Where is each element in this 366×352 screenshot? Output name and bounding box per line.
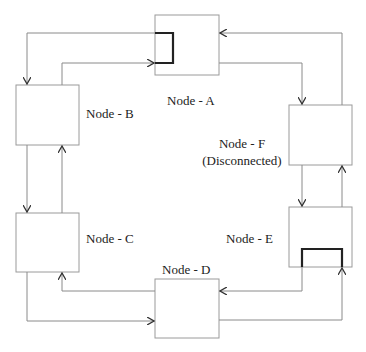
node-d-label: Node - D [162, 262, 210, 278]
node-b-label: Node - B [86, 106, 134, 122]
link-b-to-a [62, 63, 154, 85]
node-d-box[interactable] [155, 279, 219, 338]
ring-diagram [0, 0, 366, 352]
node-f-label-group: Node - F (Disconnected) [200, 136, 284, 169]
node-e-label: Node - E [226, 231, 273, 247]
node-f-box[interactable] [289, 105, 352, 165]
link-c-to-d [27, 272, 154, 321]
link-f-to-a [220, 33, 342, 105]
link-e-to-d [220, 267, 302, 291]
node-c-label: Node - C [86, 231, 134, 247]
link-a-to-b [27, 33, 155, 84]
node-b-box[interactable] [16, 85, 79, 145]
node-f-label: Node - F [200, 136, 284, 152]
link-d-to-e [219, 268, 342, 320]
node-a-label: Node - A [167, 93, 215, 109]
link-d-to-c [62, 273, 155, 291]
node-a-box[interactable] [155, 15, 219, 75]
link-a-to-f [219, 63, 302, 104]
node-f-status: (Disconnected) [200, 153, 284, 169]
node-c-box[interactable] [16, 213, 79, 272]
